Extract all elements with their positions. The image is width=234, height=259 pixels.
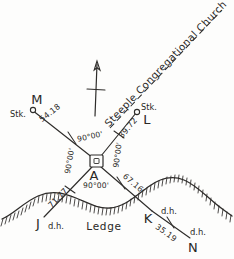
- angle-upper-right: 90°00': [111, 142, 124, 169]
- survey-lines: [32, 110, 190, 238]
- stake-marker-l: [134, 109, 139, 114]
- north-arrow-crossbar: [87, 89, 105, 90]
- ledge-label: Ledge: [86, 220, 121, 232]
- survey-drawing-canvas: M Stk. L Stk. A J d.h. K d.h. N d.h. 54.…: [0, 0, 234, 259]
- north-arrow-icon: [87, 61, 105, 116]
- dh-note-n: d.h.: [190, 227, 206, 237]
- stake-marker-m: [30, 107, 35, 112]
- station-label-n: N: [188, 240, 198, 255]
- station-label-j: J: [35, 216, 40, 231]
- steeple-sight-label: Steeple Congregational Church: [102, 0, 228, 129]
- distance-a-l: 39.72: [117, 116, 139, 140]
- survey-sketch-figure: M Stk. L Stk. A J d.h. K d.h. N d.h. 54.…: [0, 0, 234, 259]
- stake-note-m: Stk.: [10, 109, 26, 119]
- monument-marker-a: [90, 155, 103, 167]
- dh-note-k: d.h.: [161, 206, 177, 216]
- station-label-l: L: [143, 112, 151, 127]
- ledge-outline: [2, 178, 232, 219]
- station-label-k: K: [144, 211, 153, 226]
- angle-upper-left: 90°00': [76, 130, 103, 144]
- distance-a-k: 67.16: [121, 172, 145, 194]
- angle-lower-right: 90°00': [83, 181, 109, 190]
- stake-note-l: Stk.: [141, 102, 157, 112]
- distance-k-n: 35.19: [154, 222, 179, 243]
- angle-lower-left: 90°00': [63, 147, 76, 174]
- station-label-m: M: [31, 92, 42, 107]
- dh-note-j: d.h.: [48, 221, 64, 231]
